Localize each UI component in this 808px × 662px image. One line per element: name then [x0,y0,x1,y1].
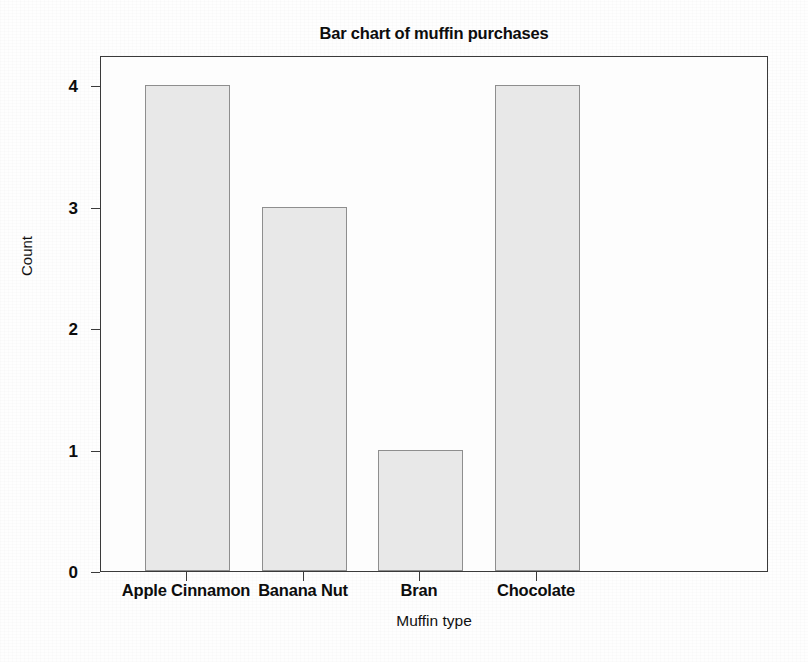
x-axis-title: Muffin type [100,612,768,630]
y-tick-label: 0 [69,563,78,583]
y-tick-0: 0 [91,572,100,573]
y-tick-label: 1 [69,442,78,462]
y-tick-4: 4 [91,86,100,87]
x-tick-apple-cinnamon [186,572,187,581]
y-tick-3: 3 [91,208,100,209]
y-tick-1: 1 [91,451,100,452]
x-tick-label: Banana Nut [258,581,348,600]
y-tick-label: 2 [69,320,78,340]
bar-chart-figure: Bar chart of muffin purchases Count 0123… [0,0,808,662]
y-tick-2: 2 [91,329,100,330]
plot-area [100,56,768,572]
bar-chocolate [495,85,580,571]
x-tick-label: Apple Cinnamon [122,581,250,600]
bar-apple-cinnamon [145,85,230,571]
chart-title: Bar chart of muffin purchases [100,24,768,43]
bar-bran [378,450,463,572]
bar-banana-nut [262,207,347,572]
x-tick-chocolate [536,572,537,581]
y-axis-title: Count [18,236,35,276]
bars-layer [101,57,767,571]
x-tick-bran [419,572,420,581]
x-tick-label: Chocolate [497,581,575,600]
x-tick-label: Bran [401,581,438,600]
x-tick-banana-nut [303,572,304,581]
y-tick-label: 4 [69,77,78,97]
y-tick-label: 3 [69,199,78,219]
